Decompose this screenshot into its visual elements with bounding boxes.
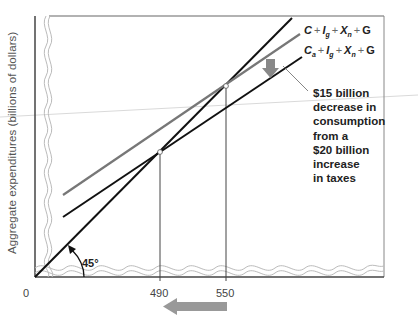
line-ae-initial — [63, 34, 300, 195]
angle-label: 45° — [82, 257, 99, 269]
annotation-pointer — [283, 66, 308, 91]
x-tick-550: 550 — [216, 287, 234, 299]
line-45-degree — [35, 18, 292, 277]
equilibrium-point-550 — [224, 84, 229, 89]
curve-label-ae-initial: C+Ig+Xn+G — [304, 24, 371, 38]
tax-annotation: $15 billion decrease in consumption from… — [313, 86, 385, 185]
curve-label-ae-after-tax: Ca+Ig+Xn+G — [304, 44, 375, 58]
x-tick-490: 490 — [150, 287, 168, 299]
left-arrow-icon — [163, 298, 227, 315]
line-ae-after-tax — [63, 57, 302, 217]
equilibrium-point-490 — [158, 150, 163, 155]
label-c: C — [304, 24, 312, 36]
x-tick-0: 0 — [23, 287, 29, 299]
y-axis-break-icon — [44, 16, 53, 277]
y-axis-label: Aggregate expenditures (billions of doll… — [6, 32, 18, 254]
